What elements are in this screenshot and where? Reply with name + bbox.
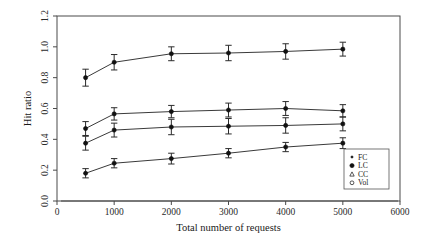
series-line-LC <box>86 109 343 129</box>
data-point-CC-2000 <box>169 125 173 129</box>
legend-label-Vol: Vol <box>358 178 368 187</box>
data-point-Vol-2000 <box>169 157 173 161</box>
data-point-LC-4000 <box>284 106 288 110</box>
x-tick-label-3000: 3000 <box>219 207 238 217</box>
chart-figure: 0100020003000400050006000Total number of… <box>0 0 423 252</box>
data-point-FC-2000 <box>169 52 173 56</box>
series-line-CC <box>86 124 343 143</box>
series-line-FC <box>86 49 343 78</box>
y-tick-label-1.0: 1.0 <box>40 41 50 53</box>
data-point-Vol-4000 <box>284 145 288 149</box>
x-tick-label-0: 0 <box>55 207 60 217</box>
data-point-Vol-5000 <box>341 141 345 145</box>
data-point-FC-3000 <box>226 51 230 55</box>
y-tick-label-1.2: 1.2 <box>40 10 50 22</box>
series-line-Vol <box>86 143 343 173</box>
data-point-Vol-500 <box>83 171 87 175</box>
data-point-LC-500 <box>83 126 87 130</box>
data-point-CC-5000 <box>341 122 345 126</box>
data-point-CC-1000 <box>112 128 116 132</box>
x-tick-label-1000: 1000 <box>105 207 124 217</box>
data-point-LC-3000 <box>226 108 230 112</box>
y-tick-label-0.0: 0.0 <box>40 195 50 207</box>
y-tick-label-0.2: 0.2 <box>40 164 50 176</box>
data-point-FC-4000 <box>284 49 288 53</box>
y-tick-label-0.8: 0.8 <box>40 71 50 83</box>
x-tick-label-6000: 6000 <box>391 207 410 217</box>
y-tick-label-0.4: 0.4 <box>40 133 50 145</box>
data-point-LC-2000 <box>169 109 173 113</box>
x-tick-label-4000: 4000 <box>276 207 295 217</box>
y-tick-label-0.6: 0.6 <box>40 102 50 114</box>
data-point-FC-5000 <box>341 47 345 51</box>
legend-marker-LC-icon <box>350 164 354 168</box>
data-point-CC-4000 <box>284 123 288 127</box>
data-point-Vol-1000 <box>112 161 116 165</box>
data-point-CC-500 <box>83 141 87 145</box>
data-point-LC-5000 <box>341 109 345 113</box>
x-axis-title: Total number of requests <box>176 222 281 233</box>
x-tick-label-2000: 2000 <box>162 207 181 217</box>
data-point-CC-3000 <box>226 124 230 128</box>
x-tick-label-5000: 5000 <box>333 207 352 217</box>
legend-marker-FC-icon <box>351 156 353 158</box>
data-point-Vol-3000 <box>226 151 230 155</box>
data-point-LC-1000 <box>112 112 116 116</box>
y-axis-title: Hit ratio <box>22 91 33 126</box>
line-chart: 0100020003000400050006000Total number of… <box>0 0 423 252</box>
data-point-FC-500 <box>83 76 87 80</box>
data-point-FC-1000 <box>112 60 116 64</box>
